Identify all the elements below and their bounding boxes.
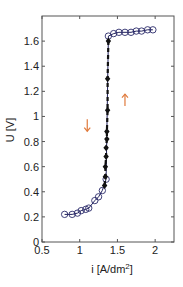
y-tick-labels: 00.20.40.60.811.21.41.6 [24, 35, 39, 248]
x-axis-label-main: i [A/dm [91, 263, 125, 275]
x-tick-label: 0.5 [34, 244, 49, 256]
y-tick-label: 0.8 [24, 136, 39, 148]
x-tick-label: 2 [152, 244, 158, 256]
chart: 00.20.40.60.811.21.41.6 0.511.52 U [V] i… [0, 0, 183, 287]
x-axis-label: i [A/dm2] [91, 262, 133, 275]
y-tick-label: 0.4 [24, 186, 39, 198]
x-tick-label: 1.5 [110, 244, 125, 256]
x-tick-labels: 0.511.52 [34, 244, 158, 256]
y-tick-label: 0.6 [24, 161, 39, 173]
y-tick-label: 1 [33, 110, 39, 122]
y-tick-label: 1.6 [24, 35, 39, 47]
y-tick-label: 0.2 [24, 211, 39, 223]
x-tick-label: 1 [77, 244, 83, 256]
x-axis-label-end: ] [130, 263, 133, 275]
y-tick-label: 1.2 [24, 85, 39, 97]
y-axis-label: U [V] [4, 118, 16, 142]
y-tick-label: 1.4 [24, 60, 39, 72]
